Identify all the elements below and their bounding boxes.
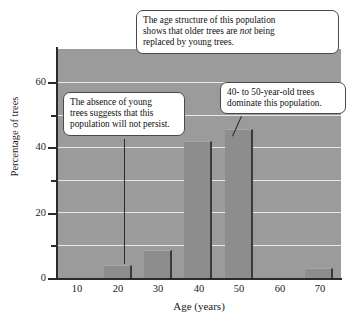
callout-top-line3: replaced by young trees. — [143, 37, 332, 48]
y-tick-10 — [51, 245, 57, 247]
age-structure-bar-chart-figure: 0 20 40 60 10 20 30 40 50 60 70 Percenta… — [0, 0, 355, 324]
callout-top-line1: The age structure of this population — [143, 15, 332, 26]
y-tick-0 — [48, 278, 57, 280]
bar-age-70 — [305, 268, 333, 278]
y-axis-label-0: 0 — [6, 273, 46, 283]
callout-left-line2: trees suggests that this — [70, 108, 178, 119]
callout-top-line2: shows that older trees are not being — [143, 26, 332, 37]
y-tick-20 — [48, 213, 57, 215]
callout-top: The age structure of this population sho… — [136, 10, 339, 54]
y-axis-title: Percentage of trees — [9, 77, 20, 197]
callout-top-emphasis-not: not — [240, 26, 252, 36]
y-tick-50 — [51, 115, 57, 117]
bar-age-40 — [184, 141, 212, 278]
leader-line-left-callout — [124, 139, 125, 264]
x-axis-label-60: 60 — [260, 283, 300, 294]
y-tick-40 — [48, 147, 57, 149]
x-axis-line — [56, 278, 342, 280]
callout-top-line2-part1: shows that older trees are — [143, 26, 240, 36]
bar-age-20 — [104, 265, 132, 278]
x-axis-title: Age (years) — [57, 300, 341, 312]
x-axis-label-70: 70 — [300, 283, 340, 294]
bar-age-30 — [144, 250, 172, 278]
x-axis-label-10: 10 — [57, 283, 97, 294]
x-axis-label-40: 40 — [179, 283, 219, 294]
callout-top-line2-part2: being — [252, 26, 275, 36]
x-axis-label-20: 20 — [98, 283, 138, 294]
callout-right: 40- to 50-year-old trees dominate this p… — [220, 82, 346, 114]
y-axis-label-20: 20 — [6, 208, 46, 218]
callout-right-line2: dominate this population. — [227, 98, 339, 109]
callout-left-line3: population will not persist. — [70, 119, 178, 130]
callout-right-line1: 40- to 50-year-old trees — [227, 87, 339, 98]
y-tick-30 — [51, 180, 57, 182]
bar-age-50 — [225, 129, 253, 278]
x-axis-label-50: 50 — [219, 283, 259, 294]
callout-left-line1: The absence of young — [70, 97, 178, 108]
y-tick-60 — [48, 82, 57, 84]
callout-left: The absence of young trees suggests that… — [63, 92, 185, 136]
x-axis-label-30: 30 — [138, 283, 178, 294]
